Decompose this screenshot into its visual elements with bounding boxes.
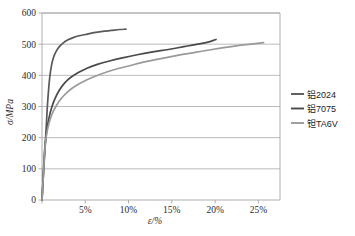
x-tick-label-20: 20% — [206, 205, 224, 215]
legend-label-0: 铝2024 — [307, 89, 336, 100]
y-tick-label-500: 500 — [22, 40, 37, 50]
y-tick-label-400: 400 — [22, 71, 37, 81]
stress-strain-chart: 0100200300400500600 5%10%15%20%25% σ/MPa… — [0, 0, 355, 236]
chart-background — [0, 0, 355, 236]
y-tick-label-600: 600 — [22, 8, 37, 18]
x-axis-title: ε/% — [148, 216, 162, 226]
y-axis-title: σ/MPa — [5, 99, 15, 125]
x-tick-label-5: 5% — [79, 205, 92, 215]
x-tick-label-10: 10% — [120, 205, 138, 215]
chart-legend: 铝2024铝7075钽TA6V — [291, 89, 338, 129]
x-tick-label-15: 15% — [163, 205, 181, 215]
legend-label-1: 铝7075 — [307, 103, 336, 114]
legend-label-2: 钽TA6V — [307, 118, 338, 129]
x-tick-label-25: 25% — [250, 205, 268, 215]
y-tick-label-100: 100 — [22, 164, 37, 174]
chart-canvas: 0100200300400500600 5%10%15%20%25% σ/MPa… — [0, 0, 355, 236]
y-tick-label-200: 200 — [22, 133, 37, 143]
y-tick-label-300: 300 — [22, 102, 37, 112]
y-tick-label-0: 0 — [31, 195, 36, 205]
